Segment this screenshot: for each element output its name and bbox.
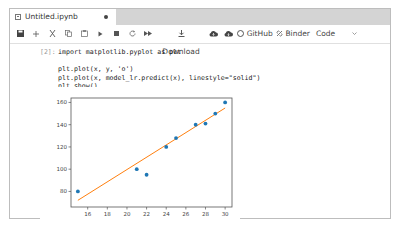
code-line: ​ — [58, 57, 260, 66]
y-tick-label: 80 — [60, 188, 67, 194]
binder-icon — [276, 30, 283, 37]
data-point — [194, 123, 198, 127]
cloud-upload-icon — [209, 30, 218, 37]
y-tick-label: 160 — [57, 99, 68, 105]
add-icon — [33, 31, 39, 37]
output-figure: 161820222426283080100120140160 — [40, 87, 240, 226]
plot-frame — [71, 98, 232, 207]
chevron-down-icon — [352, 32, 357, 35]
x-tick-label: 28 — [202, 211, 209, 217]
code-line: plt.plot(x, model_lr.predict(x), linesty… — [58, 74, 260, 83]
data-point — [174, 136, 178, 140]
y-tick-label: 140 — [57, 122, 68, 128]
copy-icon — [65, 30, 72, 37]
y-tick-label: 100 — [57, 166, 68, 172]
fast-forward-icon — [144, 31, 152, 36]
cut-button[interactable] — [46, 25, 58, 43]
x-tick-label: 16 — [84, 211, 91, 217]
scatter-plot: 161820222426283080100120140160 — [40, 87, 240, 222]
tab-untitled-ipynb[interactable]: Untitled.ipynb — [10, 9, 116, 25]
tab-title: Untitled.ipynb — [25, 9, 78, 25]
add-cell-button[interactable] — [30, 25, 42, 43]
binder-label: Binder — [285, 29, 309, 38]
cloud-upload-button[interactable] — [207, 25, 219, 43]
restart-button[interactable] — [126, 25, 138, 43]
data-point — [164, 145, 168, 149]
github-button[interactable]: GitHub — [237, 25, 273, 43]
binder-button[interactable]: Binder — [276, 25, 310, 43]
stop-icon — [114, 31, 119, 36]
y-tick-label: 120 — [57, 144, 68, 150]
data-point — [145, 173, 149, 177]
x-tick-label: 26 — [182, 211, 189, 217]
cell-type-value: Code — [316, 29, 335, 38]
stop-button[interactable] — [110, 25, 122, 43]
run-icon — [98, 31, 103, 37]
copy-button[interactable] — [62, 25, 74, 43]
github-icon — [237, 30, 244, 37]
unsaved-dot-icon[interactable] — [104, 15, 108, 19]
cloud-download-icon — [224, 30, 233, 37]
run-button[interactable] — [94, 25, 106, 43]
notebook-icon — [15, 14, 21, 20]
save-icon — [17, 30, 24, 37]
x-tick-label: 20 — [123, 211, 130, 217]
paste-button[interactable] — [78, 25, 90, 43]
restart-run-all-button[interactable] — [142, 25, 154, 43]
cell-type-select[interactable]: Code — [316, 25, 366, 43]
save-button[interactable] — [14, 25, 26, 43]
x-tick-label: 30 — [222, 211, 229, 217]
execution-prompt: [2]: — [40, 48, 56, 56]
restart-icon — [129, 30, 136, 37]
data-point — [76, 190, 80, 194]
github-label: GitHub — [247, 29, 273, 38]
data-point — [204, 122, 208, 126]
x-tick-label: 22 — [143, 211, 150, 217]
x-tick-label: 18 — [104, 211, 111, 217]
data-point — [213, 112, 217, 116]
code-editor[interactable]: import matplotlib.pyplot as plt​plt.plot… — [58, 48, 260, 91]
data-point — [135, 167, 139, 171]
code-line: plt.plot(x, y, 'o') — [58, 65, 260, 74]
code-line: import matplotlib.pyplot as plt — [58, 48, 260, 57]
x-tick-label: 24 — [163, 211, 170, 217]
cloud-download-button[interactable] — [222, 25, 234, 43]
cut-icon — [49, 30, 56, 37]
download-icon — [178, 30, 185, 37]
paste-icon — [81, 30, 88, 37]
data-point — [223, 101, 227, 105]
notebook-toolbar: Download GitHub Binder Code — [10, 25, 390, 44]
tab-bar: Untitled.ipynb — [10, 9, 390, 25]
download-button[interactable]: Download — [158, 25, 204, 43]
